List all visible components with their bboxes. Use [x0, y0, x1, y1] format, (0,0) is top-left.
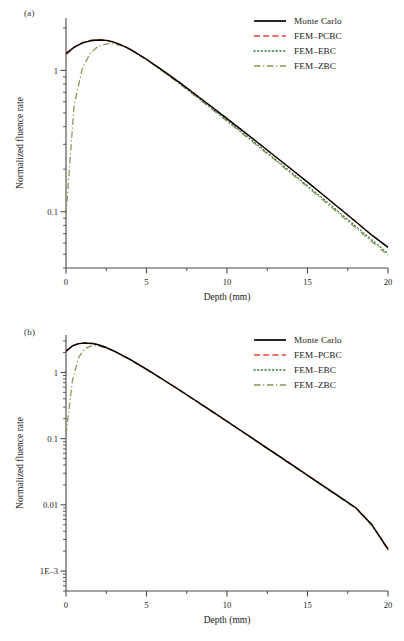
svg-text:1E–3: 1E–3 — [40, 566, 58, 576]
panel-b-legend: Monte CarloFEM–PCBCFEM–EBCFEM–ZBC — [253, 332, 342, 392]
legend-label: FEM–EBC — [294, 365, 336, 375]
legend-label: FEM–PCBC — [294, 350, 342, 360]
svg-text:15: 15 — [303, 277, 312, 287]
panel-b-x-axis-label: Depth (mm) — [66, 615, 388, 625]
svg-text:15: 15 — [303, 600, 312, 610]
panel-b-plot: 0510152010.10.011E–3 — [0, 321, 404, 641]
legend-swatch-icon — [253, 335, 287, 345]
panel-b-y-axis-label: Normalized fluence rate — [15, 408, 25, 518]
legend-item-fem-ebc: FEM–EBC — [253, 43, 342, 58]
legend-swatch-icon — [253, 31, 287, 41]
svg-text:10: 10 — [223, 600, 232, 610]
legend-label: FEM–PCBC — [294, 31, 342, 41]
legend-swatch-icon — [253, 365, 287, 375]
legend-swatch-icon — [253, 380, 287, 390]
legend-item-monte-carlo: Monte Carlo — [253, 13, 342, 28]
svg-text:1: 1 — [54, 66, 58, 76]
svg-text:5: 5 — [144, 600, 148, 610]
figure-root: (a) 0510152010.1 Normalized fluence rate… — [0, 0, 404, 641]
legend-item-fem-zbc: FEM–ZBC — [253, 377, 342, 392]
legend-label: Monte Carlo — [294, 16, 342, 26]
legend-label: FEM–ZBC — [294, 380, 336, 390]
panel-a-legend: Monte CarloFEM–PCBCFEM–EBCFEM–ZBC — [253, 13, 342, 73]
svg-text:0: 0 — [64, 277, 68, 287]
legend-label: Monte Carlo — [294, 335, 342, 345]
svg-text:0.1: 0.1 — [47, 434, 58, 444]
legend-label: FEM–ZBC — [294, 61, 336, 71]
legend-swatch-icon — [253, 46, 287, 56]
legend-swatch-icon — [253, 61, 287, 71]
legend-item-monte-carlo: Monte Carlo — [253, 332, 342, 347]
legend-swatch-icon — [253, 350, 287, 360]
svg-text:0: 0 — [64, 600, 68, 610]
svg-text:0.01: 0.01 — [43, 500, 58, 510]
legend-item-fem-ebc: FEM–EBC — [253, 362, 342, 377]
panel-a: (a) 0510152010.1 Normalized fluence rate… — [0, 0, 404, 320]
svg-text:5: 5 — [144, 277, 148, 287]
legend-item-fem-pcbc: FEM–PCBC — [253, 347, 342, 362]
panel-a-y-axis-label: Normalized fluence rate — [15, 88, 25, 198]
svg-text:1: 1 — [54, 368, 58, 378]
panel-a-plot: 0510152010.1 — [0, 0, 404, 320]
legend-item-fem-pcbc: FEM–PCBC — [253, 28, 342, 43]
panel-a-x-axis-label: Depth (mm) — [66, 292, 388, 302]
panel-b: (b) 0510152010.10.011E–3 Normalized flue… — [0, 321, 404, 641]
svg-text:20: 20 — [384, 277, 393, 287]
svg-text:10: 10 — [223, 277, 232, 287]
svg-text:0.1: 0.1 — [47, 207, 58, 217]
legend-label: FEM–EBC — [294, 46, 336, 56]
legend-swatch-icon — [253, 16, 287, 26]
legend-item-fem-zbc: FEM–ZBC — [253, 58, 342, 73]
svg-text:20: 20 — [384, 600, 393, 610]
